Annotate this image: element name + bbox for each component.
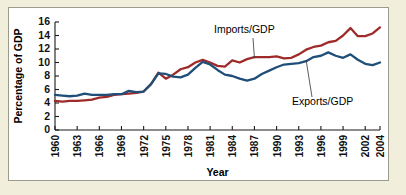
chart-svg: 0246810121416196019631966196919721975197… [9,8,388,180]
x-axis-title: Year [206,166,228,178]
x-tick-label: 1972 [139,135,150,158]
y-tick-label: 6 [44,83,50,95]
x-tick-label: 1987 [249,135,260,158]
x-tick-label: 1960 [50,135,61,158]
x-tick-label: 1999 [338,135,349,158]
x-tick-label: 2002 [360,135,371,158]
annotation-leader-exports-gdp [306,60,312,97]
y-tick-label: 2 [44,110,50,122]
annotation-label-imports-gdp: Imports/GDP [214,23,275,35]
x-tick-label: 1966 [94,135,105,158]
x-tick-label: 1978 [183,135,194,158]
x-tick-label: 1993 [294,135,305,158]
annotation-label-exports-gdp: Exports/GDP [292,95,353,107]
x-tick-label: 1996 [316,135,327,158]
y-tick-label: 10 [38,56,50,68]
x-tick-label: 1975 [161,135,172,158]
x-tick-label: 1981 [205,135,216,158]
y-tick-label: 14 [38,29,50,41]
chart-figure: 0246810121416196019631966196919721975197… [8,7,389,181]
series-line-exports-gdp [55,52,380,96]
x-tick-label: 1963 [72,135,83,158]
y-axis-title: Percentage of GDP [12,28,24,123]
y-tick-label: 12 [38,42,50,54]
x-tick-label: 1969 [116,135,127,158]
y-tick-label: 16 [38,15,50,27]
y-tick-label: 0 [44,123,50,135]
x-tick-label: 1984 [227,135,238,158]
x-tick-label: 2004 [375,135,386,158]
y-tick-label: 4 [44,96,50,108]
y-tick-label: 8 [44,69,50,81]
series-line-imports-gdp [55,27,380,101]
x-tick-label: 1990 [272,135,283,158]
annotation-leader-imports-gdp [253,38,254,58]
